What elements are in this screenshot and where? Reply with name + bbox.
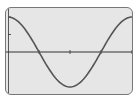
- plot-area: [6, 8, 133, 95]
- calculator-graph-screen: [5, 7, 133, 95]
